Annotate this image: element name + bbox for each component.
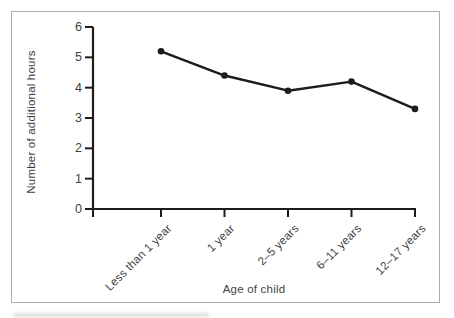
- cropped-caption-artifact: [13, 313, 209, 317]
- x-axis-title: Age of child: [223, 283, 286, 295]
- y-tick-label: 6: [48, 20, 82, 34]
- screenshot-canvas: Number of additional hours Age of child …: [0, 0, 454, 318]
- y-tick-label: 3: [48, 111, 82, 125]
- y-tick-label: 2: [48, 141, 82, 155]
- data-point-marker: [348, 78, 355, 85]
- data-point-marker: [412, 106, 419, 113]
- y-tick-label: 1: [48, 172, 82, 186]
- data-series-line: [161, 51, 415, 109]
- y-tick-label: 4: [48, 81, 82, 95]
- y-tick-label: 0: [48, 202, 82, 216]
- data-point-marker: [158, 48, 165, 55]
- y-tick-label: 5: [48, 50, 82, 64]
- data-point-marker: [221, 72, 228, 79]
- data-point-marker: [285, 87, 292, 94]
- y-axis-title: Number of additional hours: [25, 50, 37, 193]
